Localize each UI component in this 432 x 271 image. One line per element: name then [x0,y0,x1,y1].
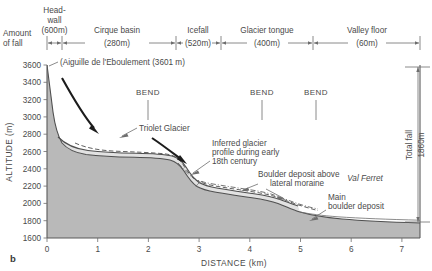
y-tick-label-2600: 2600 [23,148,42,157]
segment-amount-headwall: (600m) [42,26,68,35]
segment-label-icefall: Icefall [187,26,209,35]
x-tick-label-7: 7 [400,245,405,254]
segment-scale-bar: Amount of fall Head- wall (600m) Cirque … [3,6,420,50]
y-tick-label-3200: 3200 [23,96,42,105]
y-tick-label-2400: 2400 [23,165,42,174]
headwall-fall-arrow [62,78,99,134]
segment-amount-valley-floor: (60m) [356,39,378,48]
x-axis-ticks [47,238,402,242]
bend-marker-2: BEND [250,88,274,120]
segment-amount-glacier-tongue: (400m) [254,39,280,48]
bend-marker-1: BEND [136,88,160,120]
x-tick-label-6: 6 [349,245,354,254]
x-tick-label-2: 2 [146,245,151,254]
y-tick-label-3400: 3400 [23,78,42,87]
segment-label-headwall-line2: wall [46,16,61,25]
x-tick-label-3: 3 [197,245,202,254]
y-axis-title: ALTITUDE (m) [4,122,14,182]
x-tick-label-1: 1 [95,245,100,254]
inferred-profile-label-line2: profile during early [212,148,280,157]
x-tick-label-4: 4 [248,245,253,254]
segment-label-glacier-tongue: Glacier tongue [240,26,294,35]
y-tick-label-3600: 3600 [23,61,42,70]
segment-label-headwall-line1: Head- [43,6,66,15]
y-tick-label-1800: 1800 [23,217,42,226]
inferred-profile-label-line1: Inferred glacier [212,139,267,148]
y-tick-label-3000: 3000 [23,113,42,122]
amount-of-fall-label-line1: Amount [3,29,32,38]
bend-label-1: BEND [136,88,160,97]
segment-amount-icefall: (520m) [185,39,211,48]
panel-label: b [10,253,16,264]
main-boulder-deposit-label-line1: Main [328,193,346,202]
y-tick-label-2200: 2200 [23,182,42,191]
triolet-glacier-annotation: Triolet Glacier [119,124,190,138]
total-fall-label: Total fall [405,130,414,160]
figure-root: Amount of fall Head- wall (600m) Cirque … [0,0,432,271]
boulder-above-moraine-label-line2: lateral moraine [270,179,325,188]
summit-label: (Aiguille de l'Eboulement (3601 m) [60,58,185,67]
total-fall-value: 1860m [417,132,426,157]
inferred-profile-label-line3: 18th century [212,157,258,166]
glacier-long-profile-figure: Amount of fall Head- wall (600m) Cirque … [0,0,432,271]
segment-label-cirque-basin: Cirque basin [94,26,140,35]
x-tick-label-5: 5 [298,245,303,254]
bend-label-2: BEND [250,88,274,97]
bend-marker-3: BEND [304,88,328,120]
val-ferret-label: Val Ferret [347,174,383,183]
bend-label-3: BEND [304,88,328,97]
y-tick-label-2800: 2800 [23,130,42,139]
boulder-above-moraine-label-line1: Boulder deposit above [258,170,340,179]
summit-annotation: (Aiguille de l'Eboulement (3601 m) [49,58,185,67]
total-fall-scale: Total fall 1860m [405,67,430,222]
segment-amount-cirque-basin: (280m) [104,39,130,48]
y-tick-label-1600: 1600 [23,234,42,243]
triolet-glacier-label: Triolet Glacier [139,124,190,133]
segment-label-valley-floor: Valley floor [347,26,387,35]
y-tick-label-2000: 2000 [23,199,42,208]
x-axis-title: DISTANCE (km) [201,258,267,268]
x-tick-label-0: 0 [45,245,50,254]
main-boulder-deposit-label-line2: boulder deposit [328,202,385,211]
amount-of-fall-label-line2: of fall [3,39,23,48]
